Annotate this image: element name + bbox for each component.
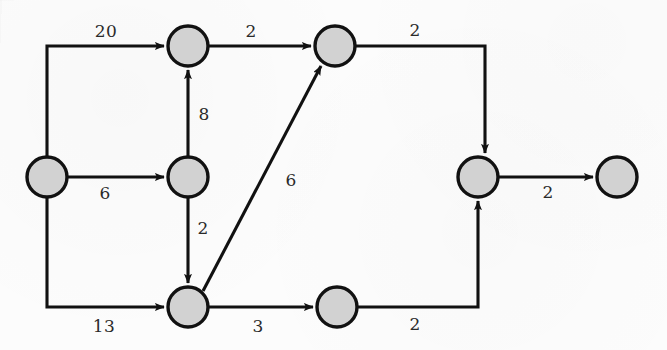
edge-weight-left-to-middle: 6: [99, 183, 110, 203]
node-far-right[interactable]: [597, 157, 637, 197]
edge-weight-top-left-to-top-right: 2: [245, 21, 256, 41]
edge-weight-top-right-to-right: 2: [409, 20, 420, 40]
edge-path-left-to-top-left: [47, 46, 164, 157]
graph-diagram-canvas: 20 2 2 8 6 2 6 13 3 2 2: [0, 0, 667, 350]
edge-weight-middle-to-top-left: 8: [198, 104, 209, 124]
node-top-left[interactable]: [168, 26, 208, 66]
edge-weight-left-to-bottom-left: 13: [93, 316, 115, 336]
edge-path-left-to-bottom-left: [47, 197, 164, 307]
edges-layer: [47, 46, 593, 307]
edge-path-top-right-to-right: [355, 46, 485, 153]
edge-path-bottom-left-to-top-right: [203, 66, 321, 291]
node-left[interactable]: [27, 157, 67, 197]
node-top-right[interactable]: [315, 26, 355, 66]
graph-svg: [0, 0, 667, 350]
node-bottom-left[interactable]: [168, 287, 208, 327]
edge-weight-bottom-left-to-top-right: 6: [285, 170, 296, 190]
edge-path-bottom-mid-to-right: [357, 201, 478, 307]
edge-weight-left-to-top-left: 20: [95, 21, 117, 41]
node-middle[interactable]: [168, 157, 208, 197]
edge-weight-bottom-left-to-bottom-mid: 3: [252, 316, 263, 336]
edge-weight-bottom-mid-to-right: 2: [409, 314, 420, 334]
node-right[interactable]: [458, 157, 498, 197]
node-bottom-middle[interactable]: [317, 287, 357, 327]
edge-weight-right-to-far-right: 2: [542, 182, 553, 202]
edge-weight-middle-to-bottom-left: 2: [197, 218, 208, 238]
